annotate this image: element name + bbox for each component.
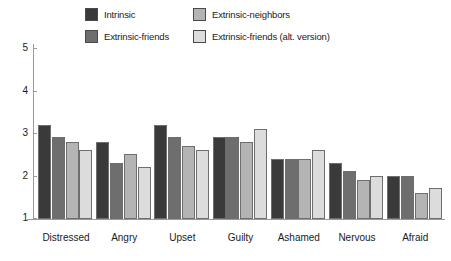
y-tick-label: 5 (14, 43, 28, 53)
legend-label-intrinsic: Intrinsic (104, 9, 135, 20)
bar-group: 3.22.92.72.6 (154, 44, 210, 219)
bar-rect (415, 193, 428, 220)
bar-group: 2.92.92.83.1 (213, 44, 269, 219)
bar-rect (240, 142, 253, 220)
bar-rect (110, 163, 123, 219)
legend-item-extrinsic-friends: Extrinsic-friends (85, 30, 193, 43)
bar-rect (226, 137, 239, 219)
bar-rect (343, 171, 356, 219)
legend-swatch-extrinsic-friends-alt (193, 30, 206, 43)
bar-rect (96, 142, 109, 220)
legend-swatch-intrinsic (85, 8, 98, 21)
legend-label-extrinsic-friends: Extrinsic-friends (104, 31, 169, 42)
y-tick-label: 1 (14, 213, 28, 223)
bar-rect (52, 137, 65, 219)
bar-group: 3.22.92.82.6 (38, 44, 94, 219)
y-tick-label: 3 (14, 128, 28, 138)
bar-group: 221.61.7 (387, 44, 443, 219)
bar-rect (254, 129, 267, 219)
legend-swatch-extrinsic-friends (85, 30, 98, 43)
bar-rect (401, 176, 414, 220)
legend-item-extrinsic-friends-alt: Extrinsic-friends (alt. version) (193, 30, 425, 43)
bar-rect (182, 146, 195, 219)
bar-rect (429, 188, 442, 219)
bar-rect (79, 150, 92, 219)
category-label: Afraid (379, 232, 451, 243)
bar-rect (271, 159, 284, 220)
bar-rect (370, 176, 383, 220)
bar-rect (387, 176, 400, 220)
y-tick-label: 2 (14, 171, 28, 181)
bar-rect (124, 154, 137, 219)
bar-group: 2.82.32.52.2 (96, 44, 152, 219)
legend-swatch-extrinsic-neighbors (193, 8, 206, 21)
bar-chart: Intrinsic Extrinsic-neighbors Extrinsic-… (0, 0, 451, 261)
bar-rect (357, 180, 370, 219)
bar-rect (312, 150, 325, 219)
bar-group: 2.32.11.92 (329, 44, 385, 219)
bar-rect (38, 125, 51, 220)
legend-label-extrinsic-neighbors: Extrinsic-neighbors (212, 9, 290, 20)
legend-item-intrinsic: Intrinsic (85, 8, 193, 21)
bar-rect (196, 150, 209, 219)
bar-rect (329, 163, 342, 219)
chart-legend: Intrinsic Extrinsic-neighbors Extrinsic-… (85, 8, 425, 43)
bar-rect (213, 137, 226, 219)
bar-rect (285, 159, 298, 220)
legend-label-extrinsic-friends-alt: Extrinsic-friends (alt. version) (212, 31, 330, 42)
legend-item-extrinsic-neighbors: Extrinsic-neighbors (193, 8, 425, 21)
bar-rect (138, 167, 151, 219)
bar-rect (298, 159, 311, 220)
x-axis-line (27, 219, 445, 220)
plot-area: 3.22.92.82.62.82.32.52.23.22.92.72.62.92… (34, 44, 445, 219)
bar-group: 2.42.42.42.6 (271, 44, 327, 219)
bar-rect (154, 125, 167, 220)
bar-rect (168, 137, 181, 219)
bar-rect (66, 142, 79, 220)
y-tick-label: 4 (14, 86, 28, 96)
